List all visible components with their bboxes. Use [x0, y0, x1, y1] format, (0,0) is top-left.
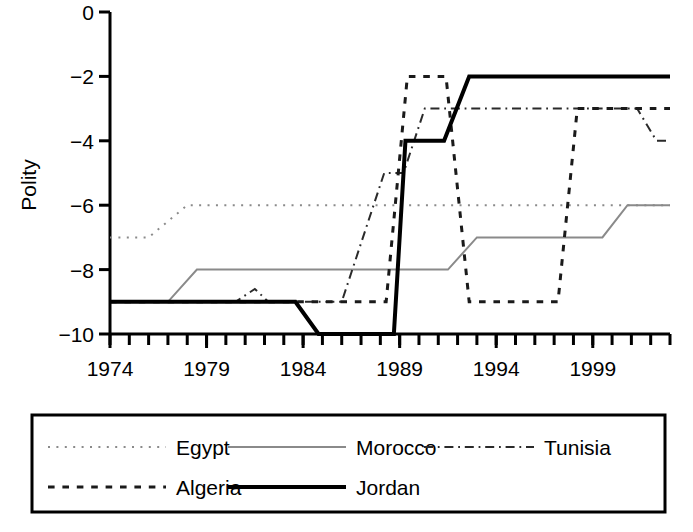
data-series-group	[110, 76, 670, 334]
series-line-morocco	[110, 205, 670, 302]
y-tick-labels: 0−2−4−6−8−10	[58, 1, 94, 346]
y-tick-label: −6	[70, 194, 94, 217]
y-tick-label: −4	[70, 130, 94, 153]
series-line-egypt	[110, 205, 670, 237]
x-tick-label: 1989	[376, 357, 423, 380]
x-tick-label: 1974	[87, 357, 134, 380]
y-axis-label: Polity	[17, 159, 40, 211]
series-line-algeria	[110, 76, 670, 301]
x-tick-label: 1984	[280, 357, 327, 380]
y-tick-label: −10	[58, 323, 94, 346]
legend-box	[32, 415, 665, 512]
x-tick-label: 1999	[569, 357, 616, 380]
legend-label-jordan: Jordan	[356, 476, 420, 499]
x-tick-labels: 197419791984198919941999	[87, 357, 616, 380]
y-tick-label: −2	[70, 65, 94, 88]
x-tick-label: 1994	[473, 357, 520, 380]
chart-canvas: Polity 0−2−4−6−8−10 19741979198419891994…	[0, 0, 693, 532]
legend-label-tunisia: Tunisia	[544, 436, 611, 459]
x-tick-marks	[110, 334, 670, 348]
legend-label-egypt: Egypt	[176, 436, 230, 459]
y-tick-label: 0	[82, 1, 94, 24]
y-tick-marks	[99, 12, 110, 334]
y-tick-label: −8	[70, 259, 94, 282]
polity-chart-figure: Polity 0−2−4−6−8−10 19741979198419891994…	[0, 0, 693, 532]
x-tick-label: 1979	[183, 357, 230, 380]
